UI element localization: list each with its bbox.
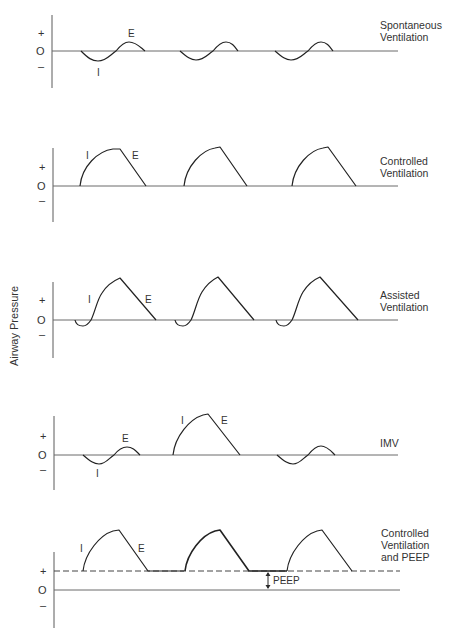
marker-e: E	[145, 294, 152, 305]
waveform	[83, 530, 352, 571]
airway-pressure-diagram: Airway Pressure + O – E I Spontaneous Ve…	[0, 0, 458, 641]
tick-plus: +	[39, 161, 45, 173]
waveform	[83, 414, 335, 464]
tick-plus: +	[38, 27, 44, 39]
tick-minus: –	[39, 328, 46, 340]
tick-minus: –	[38, 60, 45, 72]
tick-plus: +	[39, 294, 45, 306]
title-line: Ventilation	[380, 167, 429, 179]
tick-zero: O	[36, 45, 45, 57]
tick-plus: +	[40, 565, 46, 577]
title-line: Controlled	[380, 155, 428, 167]
marker-i: I	[80, 543, 83, 554]
panel-assisted-ventilation: + O – I E Assisted Ventilation	[37, 277, 429, 358]
tick-zero: O	[38, 449, 47, 461]
marker-i: I	[96, 468, 99, 479]
tick-minus: –	[40, 463, 47, 475]
marker-i: I	[97, 67, 100, 78]
marker-e: E	[128, 28, 135, 39]
tick-plus: +	[40, 430, 46, 442]
panel-imv: + O – E I I E IMV	[38, 414, 399, 490]
marker-i: I	[88, 294, 91, 305]
marker-e: E	[138, 543, 145, 554]
marker-e: E	[132, 150, 139, 161]
panel-title: Controlled Ventilation	[380, 155, 431, 179]
tick-minus: –	[40, 599, 47, 611]
peep-arrow	[266, 572, 271, 589]
title-line: IMV	[380, 437, 399, 449]
marker-i: I	[86, 150, 89, 161]
panel-title: Assisted Ventilation	[380, 289, 429, 313]
title-line: and PEEP	[381, 551, 429, 563]
title-line: Controlled	[381, 527, 429, 539]
tick-zero: O	[38, 584, 47, 596]
title-line: Ventilation	[380, 31, 429, 43]
tick-zero: O	[37, 314, 46, 326]
panel-spontaneous-ventilation: + O – E I Spontaneous Ventilation	[36, 15, 445, 88]
tick-zero: O	[37, 180, 46, 192]
tick-minus: –	[39, 194, 46, 206]
y-axis-label: Airway Pressure	[8, 286, 20, 366]
panel-title: Controlled Ventilation and PEEP	[381, 527, 432, 563]
panel-controlled-ventilation: + O – I E Controlled Ventilation	[37, 147, 431, 222]
waveform	[80, 147, 356, 186]
peep-label: PEEP	[273, 575, 300, 586]
panel-controlled-ventilation-peep: + O – PEEP I E Controlled Ventilation an…	[38, 527, 432, 628]
panel-title: Spontaneous Ventilation	[380, 19, 445, 43]
title-line: Spontaneous	[380, 19, 442, 31]
marker-e: E	[221, 415, 228, 426]
marker-e: E	[122, 433, 129, 444]
title-line: Assisted	[380, 289, 420, 301]
title-line: Ventilation	[380, 301, 429, 313]
panel-title: IMV	[380, 437, 399, 449]
waveform	[75, 277, 358, 326]
marker-i: I	[181, 415, 184, 426]
title-line: Ventilation	[381, 539, 430, 551]
